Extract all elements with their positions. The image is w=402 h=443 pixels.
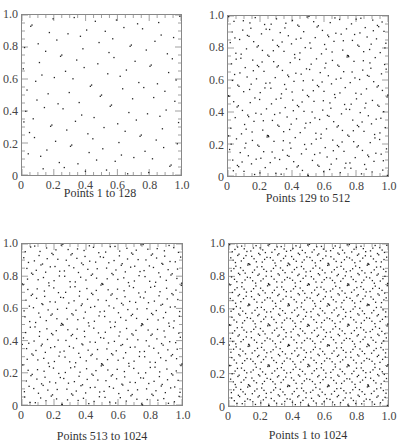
y-tick-label: 0.6 [202, 74, 224, 86]
y-tick-label: 0.6 [0, 302, 18, 314]
x-tick-label: 0.4 [277, 410, 307, 422]
y-tick-label: 0.2 [203, 368, 225, 380]
x-tick-label: 0 [6, 409, 36, 421]
plot-area-1 [21, 14, 182, 176]
plot-area-4 [228, 243, 389, 407]
y-tick-label: 0.6 [203, 303, 225, 315]
plot-area-3 [21, 243, 183, 406]
y-tick-label: 0.2 [202, 139, 224, 151]
y-tick-label: 0.8 [203, 270, 225, 282]
plot-caption: Points 1 to 1024 [208, 428, 402, 443]
scatter-points [228, 16, 390, 178]
y-tick-label: 0.6 [0, 73, 18, 85]
y-tick-label: 1.0 [202, 9, 224, 21]
scatter-points [22, 244, 184, 407]
y-tick-label: 0.4 [202, 106, 224, 118]
x-tick-label: 1.0 [168, 409, 198, 421]
x-tick-label: 0 [213, 410, 243, 422]
y-tick-label: 1.0 [0, 237, 18, 249]
x-tick-label: 0.8 [342, 410, 372, 422]
x-tick-label: 0.2 [245, 410, 275, 422]
y-tick-label: 0.8 [0, 270, 18, 282]
plot-area-2 [227, 15, 389, 177]
x-tick-label: 0.2 [38, 409, 68, 421]
y-tick-label: 0.4 [0, 105, 18, 117]
x-tick-label: 0.4 [71, 409, 101, 421]
plot-caption: Points 129 to 512 [208, 191, 402, 206]
y-tick-label: 0.8 [0, 40, 18, 52]
y-tick-label: 0.4 [0, 335, 18, 347]
y-tick-label: 0.2 [0, 367, 18, 379]
y-tick-label: 0.4 [203, 335, 225, 347]
x-tick-label: 0.6 [103, 409, 133, 421]
y-tick-label: 0.2 [0, 138, 18, 150]
y-tick-label: 1.0 [0, 8, 18, 20]
x-tick-label: 0.8 [136, 409, 166, 421]
scatter-points [229, 244, 390, 408]
scatter-points [22, 15, 183, 177]
y-tick-label: 0.8 [202, 41, 224, 53]
plot-caption: Points 513 to 1024 [2, 429, 202, 443]
x-tick-label: 0.6 [310, 410, 340, 422]
x-tick-label: 1.0 [374, 410, 402, 422]
y-tick-label: 1.0 [203, 237, 225, 249]
plot-caption: Points 1 to 128 [0, 186, 200, 201]
